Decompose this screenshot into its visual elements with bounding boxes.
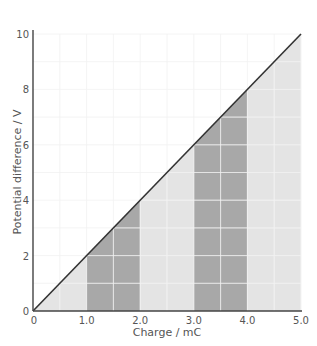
x-axis-label: Charge / mC <box>133 326 202 339</box>
x-tick-label: 5.0 <box>293 315 309 326</box>
y-tick-label: 2 <box>23 251 29 262</box>
y-tick-label: 0 <box>23 306 29 317</box>
x-tick-label: 1.0 <box>79 315 95 326</box>
x-tick-label: 3.0 <box>186 315 202 326</box>
y-tick-label: 10 <box>16 29 29 40</box>
chart: 01.02.03.04.05.0 0246810 Charge / mC Pot… <box>0 0 317 346</box>
x-tick-label: 0 <box>31 315 37 326</box>
x-tick-label: 4.0 <box>239 315 255 326</box>
x-tick-labels: 01.02.03.04.05.0 <box>31 315 309 326</box>
x-tick-label: 2.0 <box>132 315 148 326</box>
y-axis-label: Potential difference / V <box>11 109 24 235</box>
y-tick-label: 8 <box>23 84 29 95</box>
